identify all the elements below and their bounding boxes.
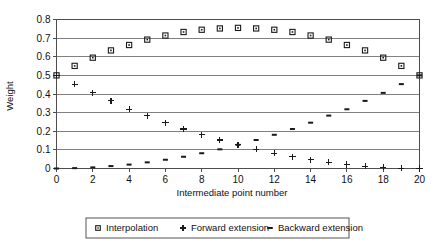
data-point-square-center	[74, 65, 76, 67]
data-point-dash	[127, 164, 132, 166]
data-point-square-center	[128, 44, 130, 46]
data-point-dash	[254, 139, 259, 141]
data-point-dash	[272, 134, 277, 136]
y-tick-label: 0	[45, 163, 51, 174]
x-tick-label: 0	[54, 174, 60, 185]
x-tick-label: 18	[378, 174, 390, 185]
legend-marker-square-center	[97, 227, 98, 228]
legend-label: Interpolation	[106, 222, 158, 233]
data-point-square-center	[364, 50, 366, 52]
x-tick-label: 8	[199, 174, 205, 185]
x-tick-label: 4	[126, 174, 132, 185]
data-point-dash	[308, 122, 313, 124]
data-point-square-center	[255, 28, 257, 30]
y-tick-label: 0.7	[37, 33, 51, 44]
data-point-square-center	[146, 39, 148, 41]
data-point-square-center	[419, 75, 421, 77]
data-point-dash	[199, 152, 204, 154]
x-axis-title: Intermediate point number	[177, 187, 288, 198]
data-point-dash	[145, 161, 150, 163]
data-point-dash	[108, 165, 113, 167]
chart-legend: InterpolationForward extensionBackward e…	[86, 218, 363, 238]
legend-item-dash: Backward extension	[267, 222, 363, 233]
data-point-dash	[326, 115, 331, 117]
legend-item-square: Interpolation	[96, 222, 159, 233]
x-tick-label: 16	[341, 174, 353, 185]
legend-label: Forward extension	[191, 222, 269, 233]
data-point-dash	[90, 166, 95, 168]
chart-background	[0, 0, 435, 248]
x-tick-label: 6	[163, 174, 169, 185]
data-point-dash	[399, 83, 404, 85]
data-point-square-center	[219, 28, 221, 30]
data-point-dash	[54, 168, 59, 170]
data-point-square-center	[201, 29, 203, 31]
data-point-square-center	[165, 35, 167, 37]
data-point-dash	[181, 156, 186, 158]
data-point-square-center	[382, 57, 384, 59]
y-tick-label: 0.6	[37, 51, 51, 62]
x-tick-label: 10	[232, 174, 244, 185]
y-tick-label: 0.4	[37, 89, 51, 100]
data-point-square-center	[401, 65, 403, 67]
data-point-square-center	[183, 31, 185, 33]
y-tick-label: 0.2	[37, 126, 51, 137]
x-tick-label: 20	[414, 174, 426, 185]
data-point-square-center	[274, 29, 276, 31]
data-point-square-center	[310, 35, 312, 37]
data-point-dash	[381, 92, 386, 94]
data-point-square-center	[56, 75, 58, 77]
y-axis-title: Weight	[4, 81, 15, 111]
y-tick-label: 0.5	[37, 70, 51, 81]
x-tick-label: 12	[269, 174, 281, 185]
data-point-dash	[217, 148, 222, 150]
y-tick-labels: 00.10.20.30.40.50.60.70.8	[37, 14, 51, 174]
data-point-square-center	[92, 57, 94, 59]
data-point-square-center	[328, 39, 330, 41]
data-point-square-center	[110, 50, 112, 52]
data-point-dash	[163, 159, 168, 161]
legend-item-plus: Forward extension	[180, 222, 269, 233]
legend-label: Backward extension	[278, 222, 363, 233]
legend-marker-dash	[267, 227, 273, 229]
chart-figure: 00.10.20.30.40.50.60.70.8 02468101214161…	[0, 0, 435, 248]
y-tick-label: 0.1	[37, 144, 51, 155]
weight-scatter-chart: 00.10.20.30.40.50.60.70.8 02468101214161…	[0, 0, 435, 248]
data-point-dash	[290, 128, 295, 130]
data-point-square-center	[237, 27, 239, 29]
data-point-square-center	[346, 44, 348, 46]
data-point-square-center	[292, 31, 294, 33]
x-tick-label: 2	[90, 174, 96, 185]
data-point-dash	[344, 108, 349, 110]
y-tick-label: 0.8	[37, 14, 51, 25]
y-tick-label: 0.3	[37, 107, 51, 118]
data-point-dash	[72, 167, 77, 169]
x-tick-label: 14	[305, 174, 317, 185]
data-point-dash	[363, 100, 368, 102]
